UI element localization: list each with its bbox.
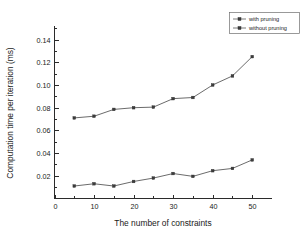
legend-label: with pruning <box>248 16 279 22</box>
y-tick-label: 0.10 <box>37 81 51 90</box>
data-point-marker <box>152 177 155 180</box>
data-point-marker <box>231 167 234 170</box>
y-tick-label: 0.08 <box>37 104 51 113</box>
y-tick-label: 0.14 <box>37 36 51 45</box>
y-axis-title: Computation time per iteration (ms) <box>5 47 15 178</box>
x-tick-label: 10 <box>91 202 99 211</box>
x-tick-label: 0 <box>54 202 58 211</box>
data-point-marker <box>73 185 76 188</box>
data-point-marker <box>172 172 175 175</box>
data-point-marker <box>251 159 254 162</box>
line-chart: 0.020.040.060.080.100.120.14 01020304050… <box>0 0 307 237</box>
data-point-marker <box>211 84 214 87</box>
x-tick-label: 40 <box>210 202 218 211</box>
legend-marker-sample <box>238 27 241 30</box>
y-tick-label: 0.02 <box>37 172 51 181</box>
chart-figure: 0.020.040.060.080.100.120.14 01020304050… <box>0 0 307 237</box>
y-tick-label: 0.06 <box>37 126 51 135</box>
data-point-marker <box>93 115 96 118</box>
data-point-marker <box>172 97 175 100</box>
data-point-marker <box>152 106 155 109</box>
data-point-marker <box>73 117 76 120</box>
y-tick-label: 0.12 <box>37 58 51 67</box>
y-tick-label: 0.04 <box>37 149 51 158</box>
data-point-marker <box>211 169 214 172</box>
data-point-marker <box>112 108 115 111</box>
x-tick-label: 20 <box>131 202 139 211</box>
legend-label: without pruning <box>248 25 287 31</box>
data-point-marker <box>251 55 254 58</box>
data-point-marker <box>231 75 234 78</box>
data-point-marker <box>132 180 135 183</box>
data-point-marker <box>112 185 115 188</box>
legend-marker-sample <box>238 18 241 21</box>
x-axis-title: The number of constraints <box>114 218 211 228</box>
data-point-marker <box>192 96 195 99</box>
data-point-marker <box>192 175 195 178</box>
data-point-marker <box>132 106 135 109</box>
data-point-marker <box>93 182 96 185</box>
x-tick-label: 30 <box>170 202 178 211</box>
x-tick-label: 50 <box>249 202 257 211</box>
chart-legend: with pruningwithout pruning <box>230 13 300 34</box>
